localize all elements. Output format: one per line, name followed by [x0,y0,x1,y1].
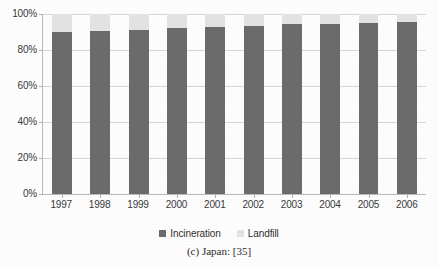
bar-segment-incineration[interactable] [397,22,417,194]
x-axis-tick [369,194,370,198]
bar-segment-landfill[interactable] [167,14,187,28]
y-axis-tick-label: 0% [23,189,37,199]
bar-segment-landfill[interactable] [205,14,225,27]
x-axis-tick-label: 1999 [127,199,148,211]
y-axis-tick [39,194,43,195]
x-axis-tick [330,194,331,198]
x-axis-tick-label: 1997 [50,199,71,211]
legend-swatch-icon [159,230,166,237]
x-axis-tick [215,194,216,198]
bar-group[interactable] [320,14,340,194]
x-axis-tick-label: 2006 [396,199,417,211]
x-axis-tick-label: 2002 [242,199,263,211]
bar-group[interactable] [282,14,302,194]
x-axis-tick [254,194,255,198]
bar-segment-landfill[interactable] [52,14,72,32]
bar-series-container [43,14,426,194]
bar-group[interactable] [359,14,379,194]
bar-segment-incineration[interactable] [52,32,72,194]
x-axis-tick [292,194,293,198]
legend-item-landfill[interactable]: Landfill [237,228,279,239]
bar-segment-incineration[interactable] [282,24,302,194]
bar-segment-incineration[interactable] [244,26,264,194]
bar-segment-landfill[interactable] [129,14,149,30]
y-axis-tick-label: 80% [18,45,37,55]
x-axis-tick-label: 2005 [358,199,379,211]
y-axis-tick-label: 100% [12,9,37,19]
bar-segment-incineration[interactable] [90,31,110,194]
bar-group[interactable] [167,14,187,194]
legend-item-incineration[interactable]: Incineration [159,228,221,239]
figure-japan-waste-treatment: 0%20%40%60%80%100% 199719981999200020012… [0,0,438,266]
bar-segment-landfill[interactable] [397,14,417,22]
x-axis-tick [177,194,178,198]
legend-label: Incineration [170,228,221,239]
bar-segment-landfill[interactable] [320,14,340,24]
bar-group[interactable] [129,14,149,194]
x-axis-tick [62,194,63,198]
bar-group[interactable] [52,14,72,194]
y-axis-tick-label: 40% [18,117,37,127]
bar-segment-landfill[interactable] [359,14,379,23]
bar-segment-incineration[interactable] [205,27,225,194]
bar-segment-landfill[interactable] [244,14,264,26]
x-axis-labels: 1997199819992000200120022003200420052006 [42,199,426,217]
y-axis-tick-label: 20% [18,153,37,163]
y-axis-tick-label: 60% [18,81,37,91]
bar-segment-incineration[interactable] [129,30,149,194]
figure-caption: (c) Japan: [35] [0,245,438,258]
x-axis-tick-label: 2003 [281,199,302,211]
bar-segment-incineration[interactable] [359,23,379,194]
plot-area: 0%20%40%60%80%100% [42,14,426,195]
bar-segment-landfill[interactable] [90,14,110,31]
bar-segment-landfill[interactable] [282,14,302,24]
chart-legend: IncinerationLandfill [0,228,438,239]
bar-segment-incineration[interactable] [320,24,340,194]
bar-group[interactable] [90,14,110,194]
x-axis-tick-label: 2004 [319,199,340,211]
bar-group[interactable] [397,14,417,194]
x-axis-tick [407,194,408,198]
bar-group[interactable] [244,14,264,194]
legend-swatch-icon [237,230,244,237]
x-axis-tick-label: 1998 [89,199,110,211]
x-axis-tick-label: 2000 [166,199,187,211]
bar-group[interactable] [205,14,225,194]
bar-segment-incineration[interactable] [167,28,187,194]
legend-label: Landfill [248,228,279,239]
x-axis-tick-label: 2001 [204,199,225,211]
x-axis-tick [100,194,101,198]
x-axis-tick [139,194,140,198]
